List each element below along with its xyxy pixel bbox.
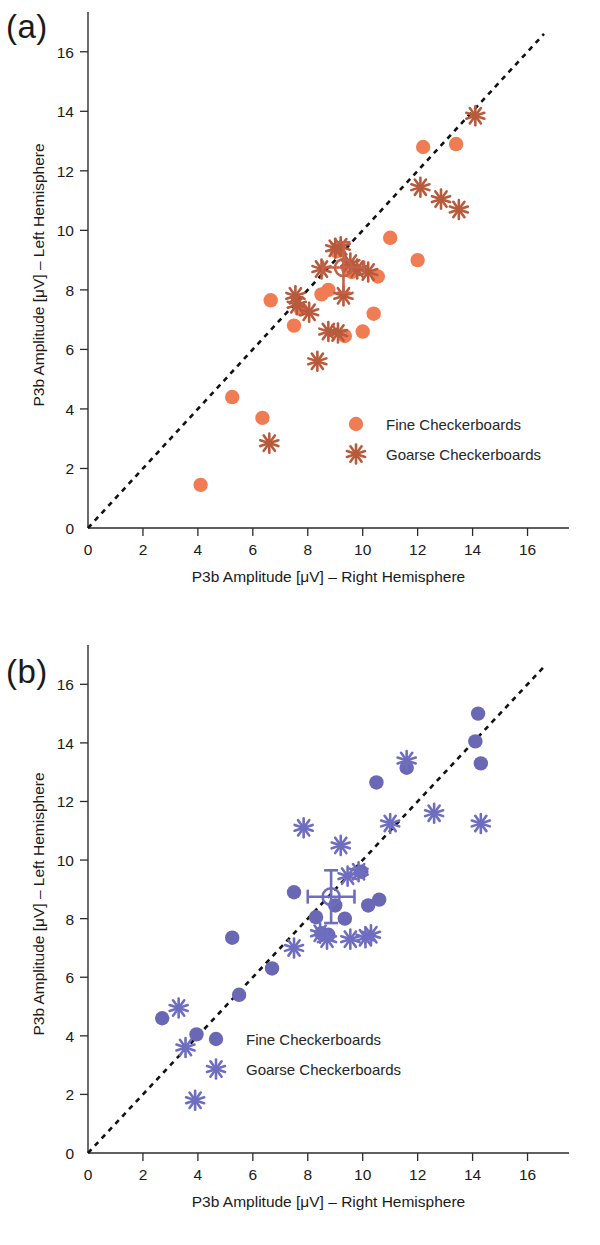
x-tick-label: 14 <box>464 541 482 558</box>
x-tick-label: 4 <box>194 541 203 558</box>
x-tick-label: 16 <box>519 541 536 558</box>
y-tick-label: 12 <box>57 163 74 180</box>
x-tick-label: 0 <box>84 541 93 558</box>
data-point-asterisk <box>285 938 303 957</box>
y-tick-label: 14 <box>57 735 75 752</box>
x-tick-label: 6 <box>249 541 258 558</box>
y-tick-label: 8 <box>65 911 74 928</box>
data-point-circle <box>255 411 269 425</box>
y-tick-label: 2 <box>65 460 74 477</box>
data-point-circle <box>193 478 207 492</box>
x-tick-label: 14 <box>464 1166 482 1183</box>
y-tick-label: 2 <box>65 1086 74 1103</box>
y-tick-label: 4 <box>65 1028 74 1045</box>
x-tick-label: 8 <box>303 541 312 558</box>
data-point-asterisk <box>341 930 359 949</box>
data-series <box>170 751 490 1110</box>
data-point-circle <box>263 293 277 307</box>
y-tick-label: 8 <box>65 282 74 299</box>
data-point-circle <box>265 961 279 975</box>
y-tick-label: 10 <box>57 852 75 869</box>
y-tick-label: 10 <box>57 222 75 239</box>
data-point-circle <box>383 231 397 245</box>
data-point-asterisk <box>411 178 429 197</box>
legend: Fine CheckerboardsGoarse Checkerboards <box>347 416 541 464</box>
panel-b-plot: 02468101214160246810121416Fine Checkerbo… <box>0 625 600 1245</box>
data-point-asterisk <box>260 434 278 453</box>
data-point-asterisk <box>308 352 326 371</box>
data-series <box>155 706 488 1041</box>
data-point-asterisk <box>472 814 490 833</box>
y-tick-label: 16 <box>57 676 74 693</box>
data-series <box>260 106 484 452</box>
data-point-circle <box>155 1011 169 1025</box>
data-point-circle <box>416 140 430 154</box>
legend-marker-fine <box>209 1032 223 1046</box>
legend-label-fine: Fine Checkerboards <box>246 1031 381 1048</box>
data-point-circle <box>356 324 370 338</box>
y-tick-label: 16 <box>57 44 74 61</box>
x-tick-label: 12 <box>409 1166 426 1183</box>
y-tick-label: 12 <box>57 793 74 810</box>
data-point-asterisk <box>176 1038 194 1057</box>
x-tick-label: 10 <box>354 1166 372 1183</box>
data-point-circle <box>225 390 239 404</box>
data-point-circle <box>366 306 380 320</box>
data-point-circle <box>309 910 323 924</box>
legend-marker-coarse <box>207 1060 225 1079</box>
y-tick-label: 6 <box>65 341 74 358</box>
legend-label-fine: Fine Checkerboards <box>386 416 521 433</box>
legend-marker-coarse <box>347 445 365 464</box>
panel-a-plot: 02468101214160246810121416Fine Checkerbo… <box>0 0 600 600</box>
data-point-circle <box>225 930 239 944</box>
data-point-asterisk <box>450 200 468 219</box>
data-point-asterisk <box>295 818 313 837</box>
x-tick-label: 2 <box>139 1166 148 1183</box>
panel-a: (a) P3b Amplitude [μV] – Left Hemisphere… <box>0 0 600 600</box>
data-point-circle <box>471 706 485 720</box>
data-point-asterisk <box>332 836 350 855</box>
y-tick-label: 0 <box>65 520 74 537</box>
legend-label-coarse: Goarse Checkerboards <box>246 1061 401 1078</box>
data-point-circle <box>321 283 335 297</box>
data-point-circle <box>474 756 488 770</box>
data-point-asterisk <box>425 804 443 823</box>
data-point-circle <box>287 318 301 332</box>
data-point-circle <box>232 988 246 1002</box>
y-tick-label: 6 <box>65 969 74 986</box>
data-point-asterisk <box>186 1091 204 1110</box>
x-tick-label: 8 <box>303 1166 312 1183</box>
legend: Fine CheckerboardsGoarse Checkerboards <box>207 1031 401 1079</box>
data-point-circle <box>410 253 424 267</box>
legend-marker-fine <box>349 417 363 431</box>
data-point-circle <box>287 885 301 899</box>
y-tick-label: 0 <box>65 1145 74 1162</box>
data-point-asterisk <box>170 998 188 1017</box>
data-point-circle <box>372 892 386 906</box>
x-tick-label: 10 <box>354 541 372 558</box>
data-point-asterisk <box>398 751 416 770</box>
legend-label-coarse: Goarse Checkerboards <box>386 446 541 463</box>
data-point-circle <box>338 911 352 925</box>
y-tick-label: 4 <box>65 401 74 418</box>
x-tick-label: 4 <box>194 1166 203 1183</box>
panel-b: (b) P3b Amplitude [μV] – Left Hemisphere… <box>0 625 600 1245</box>
x-tick-label: 12 <box>409 541 426 558</box>
x-tick-label: 6 <box>249 1166 258 1183</box>
y-tick-label: 14 <box>57 103 75 120</box>
data-point-circle <box>468 734 482 748</box>
x-tick-label: 2 <box>139 541 148 558</box>
data-point-circle <box>449 137 463 151</box>
data-point-asterisk <box>432 190 450 209</box>
figure-container: (a) P3b Amplitude [μV] – Left Hemisphere… <box>0 0 600 1245</box>
x-tick-label: 0 <box>84 1166 93 1183</box>
x-tick-label: 16 <box>519 1166 536 1183</box>
data-point-circle <box>369 775 383 789</box>
